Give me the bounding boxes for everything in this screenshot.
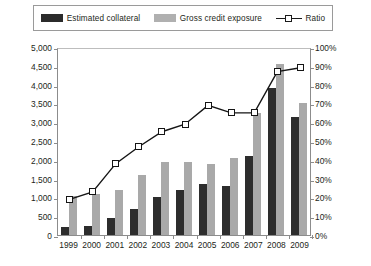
bar-gross-credit-exposure: [138, 175, 146, 235]
y-axis-right-tick: [310, 143, 314, 144]
x-axis-tick: [197, 235, 198, 239]
plot-area: [57, 48, 311, 236]
bar-gross-credit-exposure: [207, 164, 215, 235]
legend-label-estimated-collateral: Estimated collateral: [67, 14, 140, 23]
x-axis-tick: [81, 235, 82, 239]
bar-group: [173, 49, 196, 235]
x-axis-tick: [243, 235, 244, 239]
bar-estimated-collateral: [268, 88, 276, 235]
y-axis-right-tick: [310, 162, 314, 163]
bar-estimated-collateral: [107, 218, 115, 235]
x-axis-tick-label: 2007: [242, 240, 265, 256]
y-axis-left-tick: [54, 218, 58, 219]
bar-gross-credit-exposure: [276, 64, 284, 235]
y-axis-right-tick-label: 80%: [315, 81, 332, 91]
y-axis-left-tick: [54, 237, 58, 238]
gray-square-swatch-icon: [154, 14, 176, 22]
bar-group: [241, 49, 264, 235]
y-axis-left-tick-label: 3,500: [31, 99, 52, 109]
y-axis-left-tick: [54, 68, 58, 69]
y-axis-left-tick-label: 1,500: [31, 175, 52, 185]
x-axis-tick-label: 2004: [172, 240, 195, 256]
y-axis-right-tick-label: 90%: [315, 62, 332, 72]
legend-item-estimated-collateral: Estimated collateral: [41, 14, 140, 23]
x-axis-tick: [220, 235, 221, 239]
y-axis-left-tick-label: 4,000: [31, 81, 52, 91]
y-axis-right-tick-label: 30%: [315, 175, 332, 185]
y-axis-right-tick-label: 0%: [315, 231, 327, 241]
y-axis-right-tick-label: 100%: [315, 43, 336, 53]
bar-gross-credit-exposure: [69, 196, 77, 235]
bar-group: [287, 49, 310, 235]
bar-gross-credit-exposure: [253, 113, 261, 235]
legend-item-ratio: Ratio: [276, 14, 326, 23]
bar-estimated-collateral: [245, 156, 253, 235]
legend-label-ratio: Ratio: [306, 14, 326, 23]
chart-legend: Estimated collateral Gross credit exposu…: [33, 5, 333, 31]
bar-group: [81, 49, 104, 235]
bar-group: [127, 49, 150, 235]
x-axis-tick: [173, 235, 174, 239]
bar-gross-credit-exposure: [161, 162, 169, 235]
x-axis-tick-label: 2009: [288, 240, 311, 256]
x-axis-tick: [150, 235, 151, 239]
y-axis-right-labels: 100%90%80%70%60%50%40%30%20%10%0%: [315, 48, 365, 236]
y-axis-right-tick-label: 70%: [315, 99, 332, 109]
x-axis-tick-label: 2008: [265, 240, 288, 256]
bar-group: [218, 49, 241, 235]
y-axis-left-tick: [54, 124, 58, 125]
x-axis-tick: [127, 235, 128, 239]
x-axis-tick: [104, 235, 105, 239]
y-axis-right-tick: [310, 218, 314, 219]
y-axis-left-tick: [54, 105, 58, 106]
y-axis-right-tick-label: 40%: [315, 156, 332, 166]
y-axis-left-tick-label: 2,000: [31, 156, 52, 166]
bar-group: [104, 49, 127, 235]
y-axis-left-tick-label: 5,000: [31, 43, 52, 53]
bar-group: [58, 49, 81, 235]
bar-group: [150, 49, 173, 235]
y-axis-left-tick-label: 4,500: [31, 62, 52, 72]
y-axis-left-tick: [54, 181, 58, 182]
y-axis-right-tick: [310, 87, 314, 88]
bar-estimated-collateral: [176, 190, 184, 235]
y-axis-left-tick-label: 2,500: [31, 137, 52, 147]
y-axis-right-tick: [310, 49, 314, 50]
y-axis-left-tick: [54, 162, 58, 163]
y-axis-left-tick-label: 3,000: [31, 118, 52, 128]
y-axis-right-tick-label: 60%: [315, 118, 332, 128]
line-marker-swatch-icon: [276, 14, 302, 23]
chart-figure: Estimated collateral Gross credit exposu…: [0, 0, 371, 266]
y-axis-left-tick-label: 0: [47, 231, 52, 241]
y-axis-left-tick: [54, 49, 58, 50]
x-axis-tick-label: 2001: [103, 240, 126, 256]
y-axis-right-tick: [310, 68, 314, 69]
y-axis-right-tick: [310, 124, 314, 125]
x-axis-tick-label: 1999: [57, 240, 80, 256]
bar-gross-credit-exposure: [115, 190, 123, 235]
y-axis-left-tick-label: 500: [38, 212, 52, 222]
bar-estimated-collateral: [222, 186, 230, 235]
y-axis-right-tick-label: 20%: [315, 193, 332, 203]
bar-estimated-collateral: [199, 184, 207, 235]
bar-estimated-collateral: [61, 227, 69, 235]
y-axis-left-tick-label: 1,000: [31, 193, 52, 203]
x-axis-tick-label: 2005: [196, 240, 219, 256]
x-axis-tick-label: 2003: [149, 240, 172, 256]
bar-gross-credit-exposure: [299, 103, 307, 235]
bar-group: [264, 49, 287, 235]
y-axis-left-tick: [54, 143, 58, 144]
bar-estimated-collateral: [153, 197, 161, 235]
y-axis-right-tick-label: 50%: [315, 137, 332, 147]
y-axis-left-tick: [54, 199, 58, 200]
bar-gross-credit-exposure: [230, 158, 238, 235]
x-axis-labels: 1999200020012002200320042005200620072008…: [57, 240, 311, 256]
y-axis-right-tick: [310, 105, 314, 106]
x-axis-tick-label: 2002: [126, 240, 149, 256]
x-axis-tick-label: 2000: [80, 240, 103, 256]
bar-estimated-collateral: [84, 226, 92, 235]
x-axis-tick: [266, 235, 267, 239]
y-axis-right-tick: [310, 181, 314, 182]
y-axis-right-tick: [310, 199, 314, 200]
dark-square-swatch-icon: [41, 14, 63, 22]
